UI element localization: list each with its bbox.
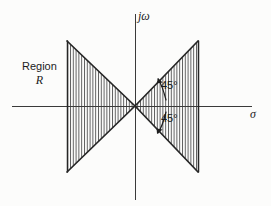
region-label-line1: Region: [22, 60, 57, 72]
angle-upper-label: 45°: [161, 80, 178, 92]
imaginary-axis-label: jω: [138, 10, 150, 23]
region-label: Region R: [22, 61, 57, 86]
angle-lower-label: 45°: [161, 113, 178, 125]
region-label-line2: R: [22, 74, 57, 87]
real-axis-label: σ: [250, 108, 256, 121]
region-hatch-right: [130, 35, 205, 180]
s-plane-region-figure: Region R jω σ 45° 45°: [0, 0, 271, 206]
diagram-canvas: [0, 0, 271, 206]
